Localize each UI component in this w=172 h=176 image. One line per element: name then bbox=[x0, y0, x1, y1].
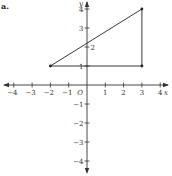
x-axis-left-arrow-icon bbox=[3, 83, 9, 87]
coordinate-plane: −4−3−2−11234−4−3−2−11234xyO bbox=[0, 0, 172, 176]
x-tick-label: −3 bbox=[25, 89, 35, 97]
triangle bbox=[49, 8, 143, 68]
y-tick-label: −2 bbox=[73, 120, 83, 128]
y-tick-label: 1 bbox=[79, 63, 83, 71]
x-tick-label: 1 bbox=[103, 89, 107, 97]
y-tick-label: −4 bbox=[73, 158, 84, 166]
y-tick-label: −3 bbox=[73, 139, 83, 147]
x-tick-label: 2 bbox=[121, 89, 125, 97]
origin-label: O bbox=[77, 89, 83, 97]
y-axis-up-arrow-icon bbox=[85, 1, 89, 7]
axis-labels: −4−3−2−11234−4−3−2−11234xyO bbox=[7, 0, 168, 166]
x-tick-label: −1 bbox=[62, 89, 72, 97]
vertex-point bbox=[49, 65, 52, 68]
y-tick-label: −1 bbox=[73, 101, 83, 109]
x-tick-label: −4 bbox=[7, 89, 18, 97]
y-tick-label: 2 bbox=[91, 44, 95, 52]
x-axis-right-arrow-icon bbox=[163, 83, 169, 87]
axes bbox=[3, 1, 169, 174]
vertex-point bbox=[141, 8, 144, 11]
x-tick-label: 4 bbox=[158, 89, 163, 97]
x-tick-label: −2 bbox=[44, 89, 54, 97]
y-axis-down-arrow-icon bbox=[85, 168, 89, 174]
vertex-point bbox=[141, 65, 144, 68]
x-axis-label: x bbox=[164, 89, 168, 97]
x-tick-label: 3 bbox=[140, 89, 144, 97]
triangle-outline bbox=[50, 9, 141, 66]
y-tick-label: 3 bbox=[79, 25, 83, 33]
